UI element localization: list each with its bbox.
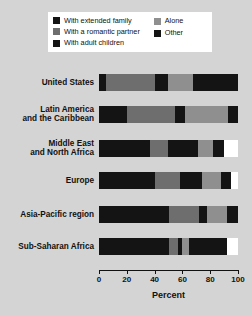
chart-legend: With extended familyWith a romantic part… [48,12,212,52]
legend-column-right: AloneOther [154,15,208,49]
bar-row [99,140,238,157]
legend-entry[interactable]: Other [154,27,208,39]
x-axis-title: Percent [99,290,238,300]
bar-segment [180,172,202,189]
legend-entry[interactable]: With a romantic partner [53,26,154,37]
bar-segment [127,106,176,123]
bar-segment [155,74,169,91]
category-label-line: United States [0,78,94,88]
legend-column-left: With extended familyWith a romantic part… [53,15,154,49]
x-axis-tick-label: 20 [117,275,137,284]
bar-segment [106,74,155,91]
plot-area [99,62,238,270]
bar-segment [168,140,197,157]
bar-segment [221,172,231,189]
x-axis-tick-label: 40 [145,275,165,284]
category-label-line: Europe [0,176,94,186]
bar-segment [99,172,155,189]
category-label: United States [0,78,94,88]
x-axis-tick [155,270,156,274]
bar-segment [99,206,169,223]
legend-swatch-icon [53,40,60,47]
bar-segment [185,106,228,123]
legend-swatch-icon [53,28,60,35]
x-axis-tick [182,270,183,274]
bar-row [99,106,238,123]
x-axis-line [99,270,238,271]
legend-swatch-icon [154,18,161,25]
x-axis-tick-label: 0 [89,275,109,284]
legend-entry[interactable]: With adult children [53,38,154,49]
x-axis-tick-label: 60 [172,275,192,284]
bar-segment [168,74,193,91]
legend-label: Other [165,29,183,37]
bar-segment [99,106,127,123]
legend-entry[interactable]: Alone [154,15,208,27]
x-axis-tick-label: 100 [228,275,248,284]
bar-segment [189,238,227,255]
category-label: Sub-Saharan Africa [0,242,94,252]
bar-segment [150,140,168,157]
bar-segment [155,172,180,189]
category-label: Asia-Pacific region [0,210,94,220]
category-label-line: Asia-Pacific region [0,210,94,220]
legend-label: With a romantic partner [64,28,140,36]
legend-label: With adult children [64,39,124,47]
x-axis-tick-label: 80 [200,275,220,284]
bar-row [99,74,238,91]
bar-segment [198,140,213,157]
bar-segment [99,238,169,255]
legend-label: Alone [165,17,184,25]
legend-entry[interactable]: With extended family [53,15,154,26]
x-axis-tick [238,270,239,274]
bar-segment [228,106,238,123]
x-axis-tick [127,270,128,274]
bar-segment [213,140,224,157]
bar-segment [169,238,179,255]
bar-segment [182,238,189,255]
bar-row [99,238,238,255]
chart-figure: With extended familyWith a romantic part… [0,0,252,316]
category-label: Latin Americaand the Caribbean [0,105,94,124]
category-label: Europe [0,176,94,186]
bar-segment [99,74,106,91]
bar-segment [175,106,185,123]
category-label-line: Middle East [0,139,94,149]
bar-segment [227,206,238,223]
bar-segment [99,140,150,157]
bar-segment [207,206,226,223]
legend-swatch-icon [53,17,60,24]
bar-segment [202,172,221,189]
category-label-line: Sub-Saharan Africa [0,242,94,252]
category-label-line: and the Caribbean [0,114,94,124]
bar-segment [193,74,237,91]
category-label-line: Latin America [0,105,94,115]
x-axis-tick [210,270,211,274]
bar-segment [169,206,200,223]
category-label: Middle Eastand North Africa [0,139,94,158]
bar-row [99,206,238,223]
legend-swatch-icon [154,30,161,37]
bar-row [99,172,238,189]
bar-segment [199,206,207,223]
category-label-line: and North Africa [0,148,94,158]
legend-label: With extended family [64,17,132,25]
x-axis-tick [99,270,100,274]
